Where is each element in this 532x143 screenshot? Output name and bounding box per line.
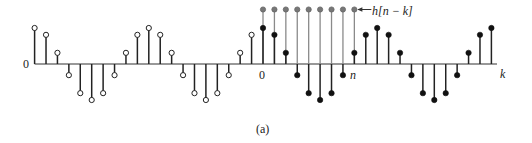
x-stem-filled-dot bbox=[375, 25, 380, 30]
x-stem-open-circle bbox=[66, 73, 71, 78]
x-stem-filled-dot bbox=[363, 32, 368, 37]
h-stem-dot bbox=[340, 7, 345, 12]
x-stem-open-circle bbox=[43, 32, 48, 37]
h-stem-dot bbox=[318, 7, 323, 12]
x-stem-filled-dot bbox=[295, 72, 300, 77]
x-stem-open-circle bbox=[101, 91, 106, 96]
x-stem-open-circle bbox=[78, 91, 83, 96]
x-stem-filled-dot bbox=[432, 97, 437, 102]
x-stem-filled-dot bbox=[477, 32, 482, 37]
h-n-minus-k-label: h[n − k] bbox=[372, 5, 413, 17]
x-stem-filled-dot bbox=[306, 90, 311, 95]
x-stem-filled-dot bbox=[454, 72, 459, 77]
x-stem-filled-dot bbox=[260, 25, 265, 30]
h-stem-dot bbox=[295, 7, 300, 12]
k-zero-label: 0 bbox=[259, 69, 265, 81]
x-stem-open-circle bbox=[89, 97, 94, 102]
x-stem-open-circle bbox=[123, 50, 128, 55]
x-stem-filled-dot bbox=[489, 25, 494, 30]
x-stem-open-circle bbox=[192, 91, 197, 96]
n-label: n bbox=[350, 69, 356, 81]
x-stem-open-circle bbox=[135, 32, 140, 37]
h-arrow-head-icon bbox=[357, 7, 362, 11]
x-stem-open-circle bbox=[249, 32, 254, 37]
x-stem-filled-dot bbox=[443, 90, 448, 95]
x-stem-open-circle bbox=[158, 32, 163, 37]
h-stem-dot bbox=[272, 7, 277, 12]
x-stem-filled-dot bbox=[409, 72, 414, 77]
stem-plot-figure: 0 0 n k h[n − k] (a) bbox=[0, 0, 532, 143]
x-stem-filled-dot bbox=[283, 50, 288, 55]
caption: (a) bbox=[256, 123, 269, 135]
x-stem-open-circle bbox=[169, 50, 174, 55]
x-stem-open-circle bbox=[238, 50, 243, 55]
x-stem-open-circle bbox=[112, 73, 117, 78]
x-stem-filled-dot bbox=[340, 72, 345, 77]
h-stem-dot bbox=[329, 7, 334, 12]
x-stem-filled-dot bbox=[317, 97, 322, 102]
origin-label: 0 bbox=[23, 58, 29, 70]
x-stem-open-circle bbox=[180, 73, 185, 78]
h-stem-dot bbox=[352, 7, 357, 12]
x-stem-open-circle bbox=[32, 25, 37, 30]
h-stem-dot bbox=[306, 7, 311, 12]
x-stem-filled-dot bbox=[386, 32, 391, 37]
x-stem-filled-dot bbox=[420, 90, 425, 95]
x-stem-open-circle bbox=[146, 25, 151, 30]
x-stem-open-circle bbox=[203, 97, 208, 102]
x-stem-filled-dot bbox=[397, 50, 402, 55]
x-stem-open-circle bbox=[215, 91, 220, 96]
h-stem-dot bbox=[260, 7, 265, 12]
x-stem-open-circle bbox=[55, 50, 60, 55]
x-stem-open-circle bbox=[226, 73, 231, 78]
x-stem-filled-dot bbox=[329, 90, 334, 95]
axis-k-label: k bbox=[500, 68, 505, 80]
x-stem-filled-dot bbox=[272, 32, 277, 37]
x-stem-filled-dot bbox=[466, 50, 471, 55]
h-stem-dot bbox=[283, 7, 288, 12]
x-stem-filled-dot bbox=[352, 50, 357, 55]
